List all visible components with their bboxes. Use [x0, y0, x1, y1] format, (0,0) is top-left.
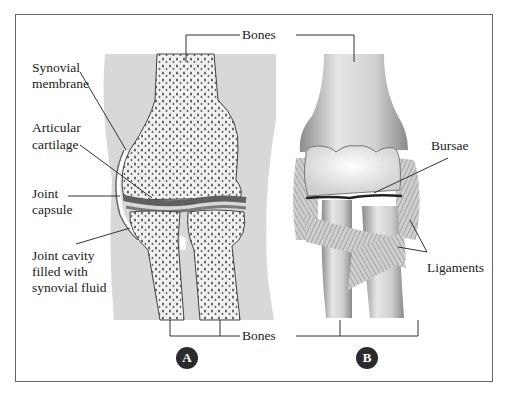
- label-joint-cavity-line1: Joint cavity: [32, 248, 95, 264]
- label-ligaments: Ligaments: [427, 260, 484, 276]
- label-synovial-membrane-line1: Synovial: [32, 60, 80, 76]
- label-articular-cartilage-line2: cartilage: [32, 137, 78, 153]
- label-joint-cavity-line2: filled with: [32, 264, 88, 280]
- panel-b-artwork: [293, 54, 420, 318]
- panel-a-artwork: [104, 54, 276, 320]
- label-bones-top: Bones: [242, 27, 276, 43]
- panel-a-badge: A: [176, 347, 198, 369]
- label-bursae: Bursae: [431, 138, 469, 154]
- label-joint-cavity-line3: synovial fluid: [32, 280, 107, 296]
- label-bones-bottom: Bones: [242, 328, 276, 344]
- label-joint-capsule-line1: Joint: [32, 186, 58, 202]
- label-synovial-membrane-line2: membrane: [32, 76, 89, 92]
- label-joint-capsule-line2: capsule: [32, 202, 72, 218]
- label-articular-cartilage-line1: Articular: [32, 120, 81, 136]
- panel-b-badge: B: [356, 347, 378, 369]
